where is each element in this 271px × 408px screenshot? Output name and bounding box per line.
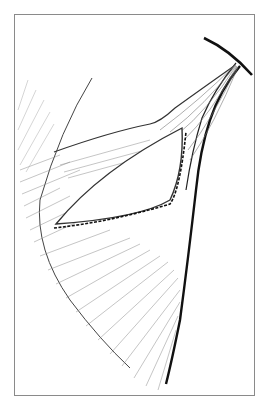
upper-left-hatching (18, 80, 54, 172)
muscle-border-arc (39, 78, 130, 368)
muscle-upper-edge (54, 66, 234, 152)
outer-contour (166, 66, 240, 384)
anatomical-illustration (0, 0, 271, 408)
illustration-canvas (0, 0, 271, 408)
bone-cap (204, 38, 252, 75)
